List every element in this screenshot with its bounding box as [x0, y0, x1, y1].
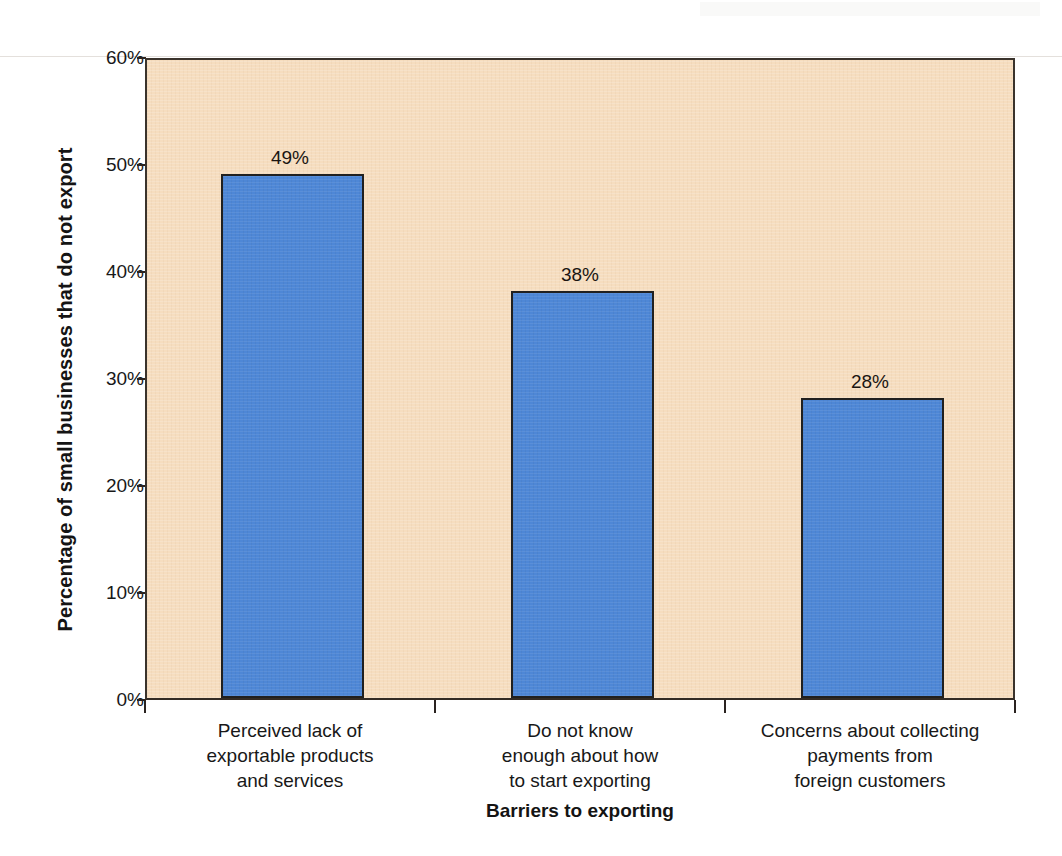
x-tick-mark — [1014, 700, 1016, 713]
y-tick-label: 20% — [72, 475, 144, 497]
bar-texture — [223, 176, 362, 696]
x-tick-mark — [144, 700, 146, 713]
x-category-label-line: and services — [145, 768, 435, 793]
bar-texture — [513, 293, 652, 696]
x-category-label: Perceived lack ofexportable productsand … — [145, 718, 435, 793]
x-tick-mark — [724, 700, 726, 713]
x-category-label-line: enough about how — [435, 743, 725, 768]
y-tick-label: 30% — [72, 368, 144, 390]
x-category-label-line: payments from — [725, 743, 1015, 768]
y-tick-label: 50% — [72, 154, 144, 176]
bar-value-label: 49% — [271, 147, 309, 169]
bar-texture — [803, 400, 942, 696]
x-category-label: Do not knowenough about howto start expo… — [435, 718, 725, 793]
y-tick-label: 40% — [72, 261, 144, 283]
y-tick-label: 0% — [72, 689, 144, 711]
bar — [801, 398, 944, 698]
y-tick-label: 60% — [72, 47, 144, 69]
x-category-label-line: foreign customers — [725, 768, 1015, 793]
x-category-label-line: Concerns about collecting — [725, 718, 1015, 743]
x-category-label-line: to start exporting — [435, 768, 725, 793]
bar — [511, 291, 654, 698]
y-tick-label: 10% — [72, 582, 144, 604]
x-axis-title: Barriers to exporting — [145, 800, 1015, 822]
x-tick-mark — [434, 700, 436, 713]
x-category-label: Concerns about collectingpayments fromfo… — [725, 718, 1015, 793]
bar — [221, 174, 364, 698]
bar-value-label: 38% — [561, 264, 599, 286]
x-category-label-line: exportable products — [145, 743, 435, 768]
bar-chart: Percentage of small businesses that do n… — [0, 0, 1062, 856]
y-axis-ticks: 0%10%20%30%40%50%60% — [58, 0, 144, 856]
x-category-label-line: Perceived lack of — [145, 718, 435, 743]
bar-value-label: 28% — [851, 371, 889, 393]
x-category-label-line: Do not know — [435, 718, 725, 743]
